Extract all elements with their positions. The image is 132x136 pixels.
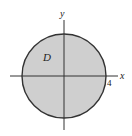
diagram-figure: y x 4 D: [0, 0, 132, 136]
diagram-svg: y x 4 D: [0, 0, 132, 136]
x-tick-label-4: 4: [107, 78, 112, 88]
y-axis-label: y: [59, 8, 65, 19]
x-axis-label: x: [119, 70, 125, 81]
region-label: D: [42, 51, 51, 63]
